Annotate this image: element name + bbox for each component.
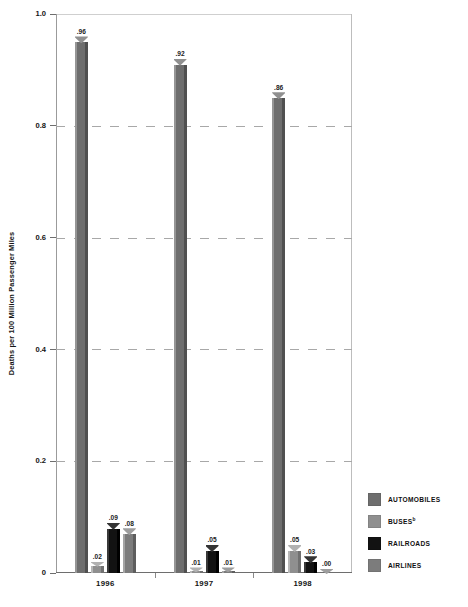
x-axis-label-1997: 1997 bbox=[195, 579, 214, 588]
bar-highlight bbox=[304, 562, 306, 573]
bar-railroads-1997: .05 bbox=[206, 545, 219, 573]
gridline bbox=[56, 349, 352, 350]
legend-item-airlines[interactable]: AIRLINES bbox=[368, 555, 468, 575]
y-axis-tick-mark bbox=[50, 125, 56, 126]
bar-value-label: .02 bbox=[93, 554, 102, 561]
legend-swatch-automobiles bbox=[368, 493, 381, 506]
gridline bbox=[56, 461, 352, 462]
bar-railroads-1996: .09 bbox=[107, 523, 120, 573]
y-axis-tick-label: 0 bbox=[42, 569, 46, 577]
legend-swatch-buses bbox=[368, 515, 381, 528]
bar-value-label: .03 bbox=[306, 549, 315, 556]
y-axis-tick-mark bbox=[50, 237, 56, 238]
plot-border-top bbox=[56, 14, 352, 15]
plot-area: 00.20.40.60.81.0 .96.02.09.08.92.01.05.0… bbox=[56, 14, 352, 573]
legend-item-automobiles[interactable]: AUTOMOBILES bbox=[368, 489, 468, 509]
bar-railroads-1998: .03 bbox=[304, 556, 317, 573]
legend-label-railroads: RAILROADS bbox=[388, 540, 430, 547]
plot-border-right bbox=[351, 14, 352, 573]
bar-highlight bbox=[288, 551, 290, 573]
y-axis-tick-label: 1.0 bbox=[35, 10, 46, 18]
y-axis-tick-mark bbox=[50, 14, 56, 15]
legend: AUTOMOBILESBUSESbRAILROADSAIRLINES bbox=[368, 489, 468, 577]
legend-label-buses: BUSESb bbox=[388, 517, 415, 525]
bar-value-label: .05 bbox=[290, 537, 299, 544]
gridline bbox=[56, 238, 352, 239]
y-axis-tick-mark bbox=[50, 461, 56, 462]
bar-highlight bbox=[206, 551, 208, 573]
bar-value-label: .96 bbox=[77, 29, 86, 36]
bar-cap bbox=[320, 569, 333, 574]
bar-automobiles-1998: .86 bbox=[272, 92, 285, 573]
legend-label-airlines: AIRLINES bbox=[388, 562, 422, 569]
bar-highlight bbox=[272, 98, 274, 573]
x-axis-label-1996: 1996 bbox=[96, 579, 115, 588]
x-axis-label-1998: 1998 bbox=[293, 579, 312, 588]
bar-shadow bbox=[232, 571, 235, 573]
bar-value-label: .00 bbox=[322, 561, 331, 568]
bar-highlight bbox=[174, 65, 176, 573]
y-axis-tick-mark bbox=[50, 349, 56, 350]
bar-shadow bbox=[101, 566, 104, 573]
bar-value-label: .86 bbox=[274, 85, 283, 92]
bar-value-label: .09 bbox=[109, 515, 118, 522]
legend-footnote-marker: b bbox=[412, 517, 415, 522]
gridline bbox=[56, 126, 352, 127]
legend-item-buses[interactable]: BUSESb bbox=[368, 511, 468, 531]
bar-airlines-1998: .00 bbox=[320, 569, 333, 573]
bar-shadow bbox=[200, 571, 203, 573]
bar-highlight bbox=[75, 42, 77, 573]
y-axis-title-text: Deaths per 100 Million Passenger Miles bbox=[8, 232, 17, 376]
y-axis-tick-label: 0.8 bbox=[35, 122, 46, 130]
transportation-fatalities-bar-chart: Deaths per 100 Million Passenger Miles 0… bbox=[0, 0, 468, 607]
bar-value-label: .92 bbox=[175, 51, 184, 58]
bar-airlines-1996: .08 bbox=[123, 528, 136, 573]
legend-item-railroads[interactable]: RAILROADS bbox=[368, 533, 468, 553]
bar-shadow bbox=[133, 534, 136, 573]
y-axis-tick-label: 0.4 bbox=[35, 345, 46, 353]
bar-highlight bbox=[91, 566, 93, 573]
y-axis-tick-label: 0.2 bbox=[35, 457, 46, 465]
plot-border-left bbox=[56, 14, 57, 573]
bar-buses-1997: .01 bbox=[190, 567, 203, 573]
legend-swatch-railroads bbox=[368, 537, 381, 550]
bar-shadow bbox=[282, 98, 285, 573]
bar-automobiles-1996: .96 bbox=[75, 36, 88, 573]
bar-highlight bbox=[190, 571, 192, 573]
bar-shadow bbox=[117, 529, 120, 573]
bar-shadow bbox=[216, 551, 219, 573]
legend-label-automobiles: AUTOMOBILES bbox=[388, 496, 440, 503]
bar-value-label: .01 bbox=[223, 560, 232, 567]
bar-shadow bbox=[85, 42, 88, 573]
bar-value-label: .08 bbox=[125, 521, 134, 528]
bar-automobiles-1997: .92 bbox=[174, 59, 187, 573]
bar-shadow bbox=[298, 551, 301, 573]
y-axis-tick-label: 0.6 bbox=[35, 233, 46, 241]
group-separator bbox=[155, 573, 156, 578]
bar-highlight bbox=[222, 571, 224, 573]
bar-shadow bbox=[314, 562, 317, 573]
group-separator bbox=[253, 573, 254, 578]
bar-value-label: .05 bbox=[207, 537, 216, 544]
legend-swatch-airlines bbox=[368, 559, 381, 572]
y-axis-tick-mark bbox=[50, 573, 56, 574]
bar-value-label: .01 bbox=[191, 560, 200, 567]
bar-highlight bbox=[123, 534, 125, 573]
bar-shadow bbox=[184, 65, 187, 573]
y-axis-title: Deaths per 100 Million Passenger Miles bbox=[2, 0, 22, 607]
bar-highlight bbox=[107, 529, 109, 573]
bar-buses-1998: .05 bbox=[288, 545, 301, 573]
bar-airlines-1997: .01 bbox=[222, 567, 235, 573]
bar-buses-1996: .02 bbox=[91, 562, 104, 573]
